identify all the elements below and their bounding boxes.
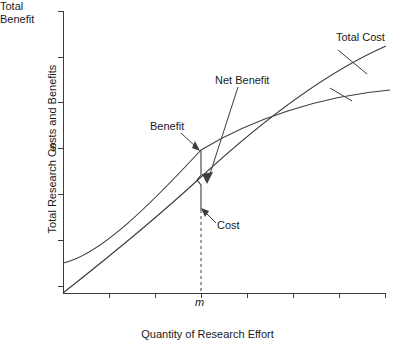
annotation-cost: Cost: [217, 219, 240, 232]
chart-figure: Total Cost Total Benefit Net Benefit Ben…: [0, 0, 415, 349]
x-axis-title: Quantity of Research Effort: [0, 328, 415, 340]
total-cost-leader: [338, 50, 367, 74]
x-axis-ticks: [109, 293, 385, 298]
annotation-benefit: Benefit: [150, 120, 184, 133]
net-benefit-arrowhead: [202, 172, 213, 184]
annotation-total-cost: Total Cost: [336, 31, 385, 44]
x-axis-optimum-label: m: [195, 296, 204, 309]
y-axis-ticks: [58, 11, 63, 286]
y-axis-title: Total Research Costs and Benefits: [46, 34, 58, 264]
total-benefit-curve: [63, 90, 390, 263]
chart-canvas: [0, 0, 415, 349]
annotation-net-benefit: Net Benefit: [215, 74, 269, 87]
benefit-arrowhead: [192, 141, 200, 151]
cost-arrowhead: [201, 208, 209, 217]
net-benefit-segment: [197, 150, 201, 210]
